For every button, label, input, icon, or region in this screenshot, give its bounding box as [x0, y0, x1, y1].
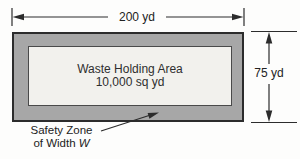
safety-zone-label-line2: of Width W	[21, 137, 102, 150]
safety-zone-label-line2-prefix: of Width	[33, 137, 75, 149]
safety-zone-label-line1: Safety Zone	[21, 124, 102, 137]
top-dim-right-arrowhead	[232, 14, 244, 21]
safety-zone-leader-arrow	[101, 113, 159, 132]
width-symbol: W	[79, 137, 90, 149]
right-dim-up-arrowhead	[266, 32, 273, 44]
leader-line	[101, 116, 149, 132]
figure-container: Waste Holding Area 10,000 sq yd 200 yd 7…	[0, 0, 300, 159]
right-dim-down-arrowhead	[266, 111, 273, 123]
right-dimension-label: 75 yd	[247, 66, 291, 80]
top-dimension-label: 200 yd	[105, 10, 169, 24]
safety-zone-label: Safety Zone of Width W	[21, 124, 102, 149]
top-dim-left-arrowhead	[13, 14, 25, 21]
leader-arrowhead	[148, 113, 159, 119]
